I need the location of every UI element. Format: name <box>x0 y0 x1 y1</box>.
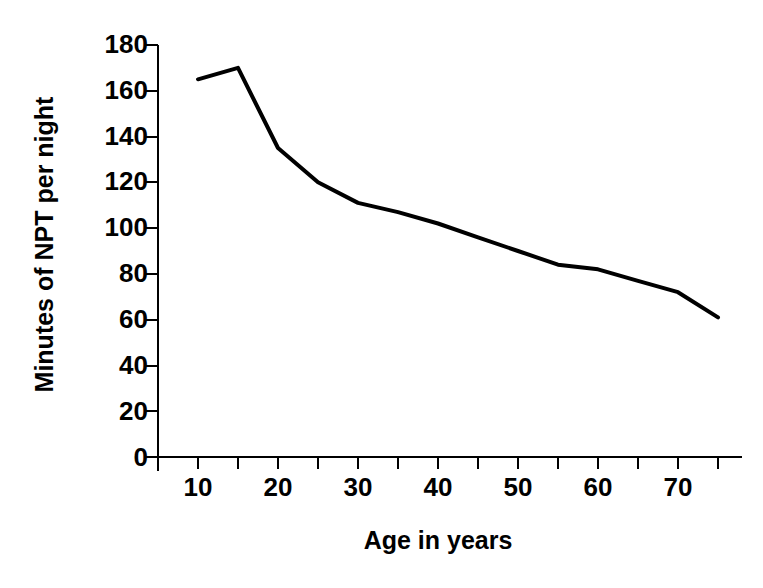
plot-area <box>0 0 763 588</box>
npt-data-line <box>198 68 718 318</box>
axis-lines <box>158 45 742 457</box>
chart-figure: Minutes of NPT per night Age in years 18… <box>0 0 763 588</box>
y-axis-ticks <box>144 45 158 457</box>
x-axis-ticks <box>158 457 718 471</box>
